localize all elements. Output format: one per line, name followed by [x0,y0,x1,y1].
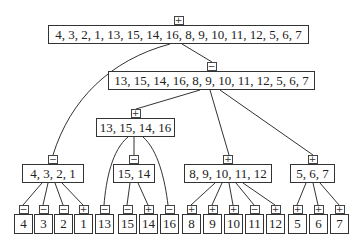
edge-root-to-4321 [53,44,170,155]
plus-sign-icon: + [144,205,154,214]
leaf-node: 9 [203,214,222,234]
plus-sign-icon: + [271,205,281,214]
leaf-node: 14 [139,214,158,234]
plus-sign-icon: + [131,109,141,118]
minus-sign-icon: − [59,205,69,214]
leaf-node: 8 [182,214,201,234]
tree-node: 15, 14 [113,164,155,183]
leaf-node: 1 [74,214,93,234]
minus-sign-icon: − [19,205,29,214]
binary-decomposition-tree: 4, 3, 2, 1, 13, 15, 14, 16, 8, 9, 10, 11… [0,0,355,246]
leaf-node: 11 [245,214,264,234]
minus-sign-icon: − [207,62,217,71]
plus-sign-icon: + [229,205,239,214]
tree-node: 5, 6, 7 [290,164,335,183]
edge-root-to-n2 [182,44,212,62]
tree-node: 4, 3, 2, 1 [22,164,84,183]
edge-n2-to-n7 [220,90,313,155]
edge-n2-to-n3 [136,90,200,109]
minus-sign-icon: − [48,155,58,164]
minus-sign-icon: − [250,205,260,214]
tree-node: 13, 15, 14, 16, 8, 9, 10, 11, 12, 5, 6, … [108,71,315,90]
leaf-node: 4 [14,214,33,234]
plus-sign-icon: + [293,205,303,214]
leaf-node: 2 [54,214,73,234]
tree-node: 13, 15, 14, 16 [96,118,175,137]
leaf-node: 7 [330,214,349,234]
leaf-node: 16 [160,214,179,234]
plus-sign-icon: + [314,205,324,214]
plus-sign-icon: + [335,205,345,214]
leaf-node: 3 [34,214,53,234]
edge-n2-to-n6 [210,90,229,155]
plus-sign-icon: + [208,205,218,214]
minus-sign-icon: − [123,205,133,214]
leaf-node: 15 [118,214,137,234]
tree-node: 8, 9, 10, 11, 12 [184,164,272,183]
leaf-node: 6 [309,214,328,234]
plus-sign-icon: + [308,155,318,164]
minus-sign-icon: − [129,155,139,164]
plus-sign-icon: + [187,205,197,214]
leaf-node: 13 [95,214,114,234]
minus-sign-icon: − [165,205,175,214]
plus-sign-icon: + [79,205,89,214]
minus-sign-icon: − [39,205,49,214]
leaf-node: 5 [288,214,307,234]
minus-sign-icon: − [100,205,110,214]
leaf-node: 12 [266,214,285,234]
plus-sign-icon: + [174,16,184,25]
plus-sign-icon: + [223,155,233,164]
tree-node: 4, 3, 2, 1, 13, 15, 14, 16, 8, 9, 10, 11… [48,25,309,44]
leaf-node: 10 [224,214,243,234]
